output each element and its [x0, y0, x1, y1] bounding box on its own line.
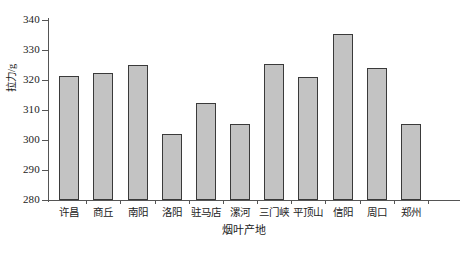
x-axis-tick: [257, 200, 258, 204]
x-axis-tick: [394, 200, 395, 204]
x-axis-tick: [120, 200, 121, 204]
bar: [93, 73, 113, 201]
bar: [298, 77, 318, 200]
x-axis-tick: [223, 200, 224, 204]
x-axis-tick: [291, 200, 292, 204]
x-axis-title-wrap: 烟叶产地: [0, 224, 473, 237]
x-axis-tick: [155, 200, 156, 204]
bar: [196, 103, 216, 201]
bar: [230, 124, 250, 201]
y-axis-tick-label-text: 280: [2, 194, 40, 205]
x-axis-tick-label: 信阳: [333, 206, 353, 219]
x-axis-tick: [360, 200, 361, 204]
x-axis-tick-label: 许昌: [59, 206, 79, 219]
x-axis-line: [48, 200, 460, 201]
y-axis-tick-label: 300: [0, 134, 40, 145]
y-axis-tick-label-text: 310: [2, 104, 40, 115]
bar: [162, 134, 182, 200]
bar-series-layer: [48, 20, 458, 200]
y-axis-tick-label-text: 290: [2, 164, 40, 175]
x-axis-tick: [189, 200, 190, 204]
bar-chart-figure: 拉力/g 280290300310320330340 许昌商丘南阳洛阳驻马店漯河…: [0, 0, 473, 256]
x-axis-tick-label: 三门峡: [259, 206, 289, 219]
bar: [401, 124, 421, 201]
bar: [128, 65, 148, 200]
x-axis-tick: [428, 200, 429, 204]
y-axis-tick-label: 320: [0, 74, 40, 85]
x-axis-tick-label: 周口: [367, 206, 387, 219]
x-axis-title: 烟叶产地: [222, 224, 266, 236]
bar: [367, 68, 387, 200]
y-axis-tick-label: 280: [0, 194, 40, 205]
y-axis-tick-label: 310: [0, 104, 40, 115]
x-axis-tick-label: 郑州: [401, 206, 421, 219]
y-axis-tick-label: 340: [0, 14, 40, 25]
x-axis-tick-label: 南阳: [128, 206, 148, 219]
bar: [264, 64, 284, 201]
y-axis-tick-label-text: 300: [2, 134, 40, 145]
x-axis-tick-label: 漯河: [230, 206, 250, 219]
bar: [59, 76, 79, 201]
x-axis-tick-label: 洛阳: [162, 206, 182, 219]
y-axis-tick: [42, 200, 48, 201]
y-axis-tick-label-text: 330: [2, 44, 40, 55]
y-axis-tick-label: 290: [0, 164, 40, 175]
x-axis-tick-label: 平顶山: [293, 206, 323, 219]
x-axis-tick-label: 驻马店: [191, 206, 221, 219]
y-axis-tick-label-text: 340: [2, 14, 40, 25]
x-axis-tick: [86, 200, 87, 204]
x-axis-tick-label: 商丘: [93, 206, 113, 219]
y-axis-tick-label-text: 320: [2, 74, 40, 85]
bar: [333, 34, 353, 201]
y-axis-tick-label: 330: [0, 44, 40, 55]
x-axis-tick: [325, 200, 326, 204]
